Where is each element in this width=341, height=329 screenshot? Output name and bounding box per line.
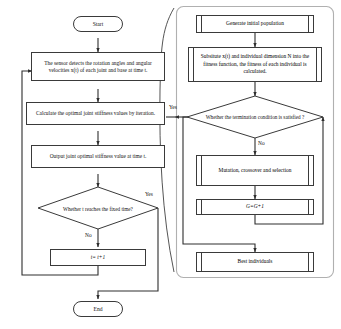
best-individuals-box: Best individuals [196,252,314,272]
output-step-label: Output joint optimal stiffness value at … [50,153,147,159]
sensor-step-box: The sensor detects the rotation angles a… [31,52,165,81]
predef-rule-right [316,48,317,81]
predef-rule-right [308,253,309,271]
decision-fixed-time-no-label: No [85,232,92,238]
panel-brace [160,8,174,272]
mutation-step-box: Mutation, crossover and selection [196,155,314,186]
calculate-step-label: Calculate the optimal joint stiffness va… [36,110,155,116]
end-terminator: End [73,301,123,317]
predef-rule-left [201,16,202,32]
generate-population-label: Generate initial population [203,16,307,32]
decision-termination-yes-label: Yes [169,104,177,110]
start-terminator: Start [73,16,123,32]
decision-termination-label: Whether the termination condition is sat… [205,106,305,128]
predef-rule-left [201,156,202,185]
calculate-step-box: Calculate the optimal joint stiffness va… [26,102,165,125]
predef-rule-left [201,200,202,214]
increment-step-box: t= t+1 [50,249,146,266]
predef-rule-right [308,200,309,214]
mutation-step-label: Mutation, crossover and selection [203,156,307,185]
decision-termination-no-label: No [258,140,265,146]
flowchart-canvas: Start The sensor detects the rotation an… [0,0,341,329]
predef-rule-right [308,156,309,185]
generate-population-box: Generate initial population [196,15,314,33]
decision-fixed-time-yes-label: Yes [145,191,153,197]
end-label: End [93,306,102,312]
predef-rule-left [201,253,202,271]
increment-step-label: t= t+1 [91,254,105,260]
fitness-step-box: Subsitute x(t) and individual dimension … [188,47,322,82]
generation-step-label: G=G+1 [203,200,307,214]
predef-rule-left [193,48,194,81]
start-label: Start [93,21,104,27]
sensor-step-label: The sensor detects the rotation angles a… [36,60,160,72]
best-individuals-label: Best individuals [203,253,307,271]
generation-step-box: G=G+1 [196,199,314,215]
fitness-step-label: Subsitute x(t) and individual dimension … [195,48,315,81]
predef-rule-right [308,16,309,32]
output-step-box: Output joint optimal stiffness value at … [31,145,165,168]
decision-fixed-time-label: Whether t reaches the fixed time? [51,198,145,220]
